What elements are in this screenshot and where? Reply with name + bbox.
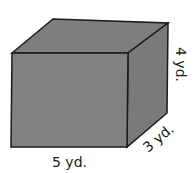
prism-front-face	[11, 53, 128, 147]
length-label: 5 yd.	[52, 154, 87, 170]
height-label: 4 yd.	[173, 47, 189, 82]
rectangular-prism-diagram: 5 yd. 3 yd. 4 yd.	[0, 0, 196, 173]
